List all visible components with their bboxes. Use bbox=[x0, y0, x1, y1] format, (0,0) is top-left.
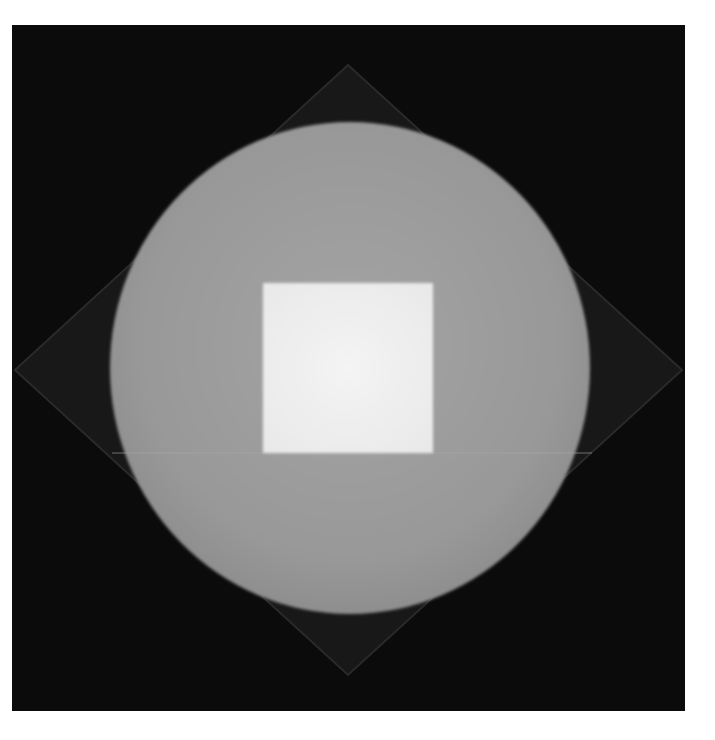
square-shape bbox=[263, 283, 433, 453]
artwork-canvas: Grayscale painting: light gray circle wi… bbox=[12, 25, 685, 711]
artwork-svg bbox=[12, 25, 685, 711]
